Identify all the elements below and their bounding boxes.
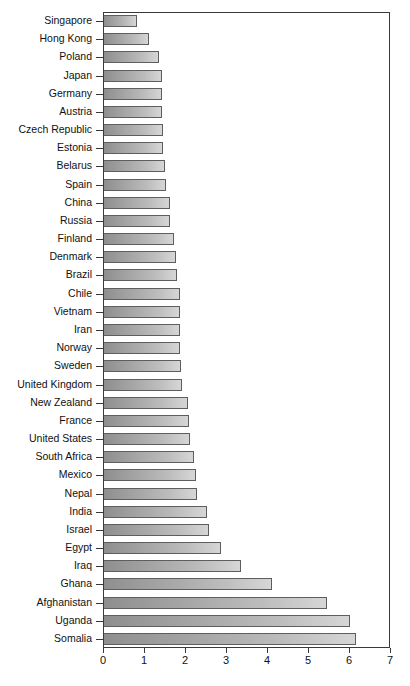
y-axis-tick [96,584,103,585]
bar [104,342,180,354]
bar [104,578,272,590]
category-label: Chile [0,288,92,299]
bar [104,615,350,627]
category-label: Nepal [0,488,92,499]
x-axis-tick-label: 3 [211,654,241,667]
bar [104,488,197,500]
bar [104,215,170,227]
bar [104,597,327,609]
bar [104,542,221,554]
category-label: Denmark [0,251,92,262]
y-axis-tick [96,185,103,186]
y-axis-tick [96,76,103,77]
y-axis-tick [96,166,103,167]
x-axis-tick [349,648,350,653]
y-axis-tick [96,639,103,640]
bar [104,179,166,191]
y-axis-tick [96,366,103,367]
category-label: Estonia [0,142,92,153]
y-axis-tick [96,148,103,149]
bar [104,51,159,63]
category-label: France [0,415,92,426]
x-axis-tick [308,648,309,653]
category-label: Czech Republic [0,124,92,135]
category-label: Japan [0,70,92,81]
category-label: Singapore [0,15,92,26]
y-axis-tick [96,294,103,295]
y-axis-tick [96,421,103,422]
bar [104,269,177,281]
category-label: United States [0,433,92,444]
bar [104,324,180,336]
category-label: Poland [0,51,92,62]
x-axis-tick-label: 7 [375,654,405,667]
category-label: Belarus [0,160,92,171]
bar [104,306,180,318]
bar [104,142,163,154]
category-label: United Kingdom [0,379,92,390]
bar [104,397,188,409]
category-label: Uganda [0,615,92,626]
bar [104,197,170,209]
bar [104,233,174,245]
x-axis-tick-label: 4 [252,654,282,667]
x-axis-tick-label: 6 [334,654,364,667]
y-axis-tick [96,94,103,95]
y-axis-tick [96,603,103,604]
bar [104,524,209,536]
y-axis-tick [96,203,103,204]
bar [104,360,181,372]
bar [104,15,137,27]
category-label: Afghanistan [0,597,92,608]
category-label: Brazil [0,269,92,280]
category-label: Norway [0,342,92,353]
y-axis-tick [96,348,103,349]
y-axis-tick [96,530,103,531]
y-axis-tick [96,257,103,258]
bar [104,379,182,391]
x-axis-tick [226,648,227,653]
x-axis-tick [103,648,104,653]
bar [104,560,241,572]
x-axis-tick-label: 1 [129,654,159,667]
y-axis-tick [96,57,103,58]
x-axis-tick [390,648,391,653]
y-axis-tick [96,512,103,513]
y-axis-tick [96,21,103,22]
bar [104,88,162,100]
x-axis: 01234567 [0,648,410,672]
y-axis-tick [96,239,103,240]
x-axis-tick-label: 5 [293,654,323,667]
category-label: India [0,506,92,517]
y-axis-tick [96,312,103,313]
bar [104,106,162,118]
category-label: New Zealand [0,397,92,408]
bar [104,469,196,481]
y-axis-tick [96,439,103,440]
y-axis-tick [96,385,103,386]
x-axis-tick [185,648,186,653]
y-axis-tick [96,475,103,476]
x-axis-tick [144,648,145,653]
category-label: Egypt [0,542,92,553]
category-label: Russia [0,215,92,226]
y-axis-tick [96,621,103,622]
x-axis-tick-label: 2 [170,654,200,667]
category-label: Iraq [0,560,92,571]
y-axis-tick [96,221,103,222]
bar [104,160,165,172]
category-label: Sweden [0,360,92,371]
x-axis-tick [267,648,268,653]
y-axis-tick [96,39,103,40]
category-label: Israel [0,524,92,535]
category-label: Mexico [0,469,92,480]
category-label: Ghana [0,578,92,589]
y-axis-tick [96,457,103,458]
category-label: Iran [0,324,92,335]
category-label: Somalia [0,633,92,644]
bar [104,70,162,82]
y-axis-tick [96,403,103,404]
category-label: China [0,197,92,208]
y-axis-tick [96,130,103,131]
y-axis-tick [96,275,103,276]
